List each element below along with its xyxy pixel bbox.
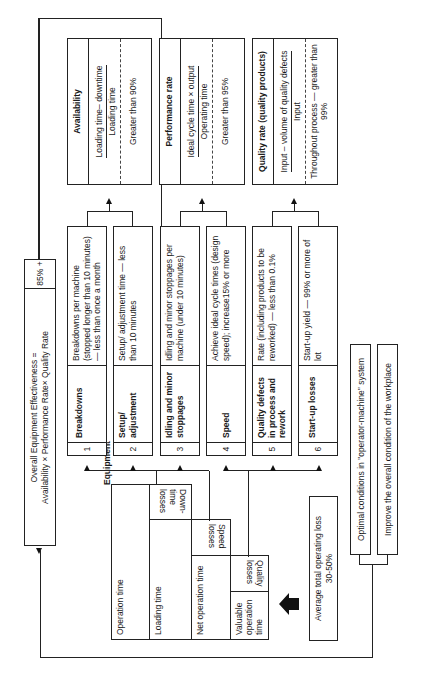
loss-target: Breakdowns per machine (stopped longer t… [67, 226, 107, 366]
metric-formula: Loading time– downtime Loading time [94, 39, 117, 184]
frame-right-edge [38, 18, 162, 19]
arrow-into-loss-1 [84, 465, 90, 471]
arrow-into-loss-3 [177, 465, 183, 471]
arrow-into-loss-6 [316, 465, 322, 471]
bracket-2-b [226, 212, 227, 226]
loss-name: Setup/ adjustment [113, 365, 153, 443]
metric-dash-divider [212, 39, 213, 184]
metric-title-divider [180, 39, 181, 184]
arrow-into-loss-2 [130, 465, 136, 471]
oee-formula-line1: Overall Equipment Effectiveness = [29, 290, 40, 545]
metric-target: Throughout process — greater than 99% [309, 39, 329, 184]
arrow-into-oee-bottom [36, 548, 42, 554]
oee-divider [25, 288, 55, 289]
loss-name: Quality defects in process and rework [252, 365, 292, 443]
loss-target: Achieve ideal cycle times (design speed)… [206, 226, 246, 366]
bracket-1-v [87, 211, 133, 212]
metric-numerator: Loading time– downtime [94, 65, 107, 157]
arrow-into-performance [199, 198, 205, 204]
loop-bottom-a [40, 548, 41, 658]
loss-number: 6 [298, 442, 338, 456]
equipment-table: Operation time Loading time Down-time lo… [111, 484, 269, 640]
down-time-losses: Down-time losses [149, 484, 192, 520]
loss-row-4: 4 Speed Achieve ideal cycle times (desig… [206, 226, 246, 456]
loss-row-5: 5 Quality defects in process and rework … [252, 226, 292, 456]
metric-denominator: Loading time [107, 39, 118, 184]
metric-target: Greater than 95% [220, 39, 231, 184]
loss-target: Rate (including products to be reworked)… [252, 226, 292, 366]
bracket-2-v [180, 211, 227, 212]
loss-number: 2 [113, 442, 153, 456]
row-operation-time: Operation time [111, 484, 150, 640]
loss-target: Idling and minor stoppages per machine (… [160, 226, 200, 366]
metric-denominator: Input [292, 39, 303, 184]
loss-name: Breakdowns [67, 365, 107, 443]
bracket-3-a [272, 212, 273, 226]
metric-numerator: Input – volume of quality defects [279, 51, 292, 173]
speed-stem-v [180, 470, 209, 471]
metric-formula: Input – volume of quality defects Input [279, 39, 302, 184]
loop-bottom-c [372, 580, 373, 658]
loss-target: Setup/ adjustment time — less than 10 mi… [113, 226, 153, 366]
bracket-3-v [272, 211, 319, 212]
quality-losses: Quality losses [230, 555, 269, 592]
metric-formula: Ideal cycle time × output Operating time [186, 39, 209, 184]
metric-title: Performance rate [164, 39, 175, 184]
loss-list: 1 Breakdowns Breakdowns per machine (sto… [67, 226, 339, 456]
loss-row-6: 6 Start-up losses Start-up yield — 99% o… [298, 226, 338, 456]
oee-diagram: Overall Equipment Effectiveness = Availa… [0, 0, 422, 685]
quality-stem [248, 471, 249, 557]
metric-dash-divider [305, 39, 306, 184]
result-arrow-icon [279, 593, 301, 615]
metric-numerator: Ideal cycle time × output [186, 66, 199, 158]
average-loss-line2: 30-50% [324, 497, 335, 640]
metric-title-divider [273, 39, 274, 184]
bracket-2-a [180, 212, 181, 226]
metric-availability: Availability Loading time– downtime Load… [67, 38, 152, 185]
loss-name: Start-up losses [298, 365, 338, 443]
row-valuable-operation-time: Valuable operation time [230, 591, 269, 640]
metric-denominator: Operating time [199, 39, 210, 184]
bracket-1-a [87, 212, 88, 226]
row-net-operation-time: Net operation time [191, 555, 231, 640]
loss-name: Speed [206, 365, 246, 443]
speed-losses: Speed losses [191, 519, 231, 556]
loop-bottom-b [40, 657, 372, 658]
oee-box: Overall Equipment Effectiveness = Availa… [24, 259, 56, 546]
loss-number: 1 [67, 442, 107, 456]
oee-target: 85% + [35, 259, 46, 288]
average-loss-line1: Average total operating loss [313, 497, 324, 640]
arrow-into-quality [291, 198, 297, 204]
bracket-1-b [132, 212, 133, 226]
condition-optimal: Optimal conditions in "operator-machine"… [350, 344, 371, 555]
metric-target: Greater than 90% [128, 39, 139, 184]
average-loss-box: Average total operating loss 30-50% [309, 496, 338, 641]
oee-formula: Overall Equipment Effectiveness = Availa… [29, 290, 50, 545]
loss-number: 5 [252, 442, 292, 456]
loss-row-1: 1 Breakdowns Breakdowns per machine (sto… [67, 226, 107, 456]
oee-formula-line2: Availability × Performance Rate× Quality… [40, 290, 51, 545]
arrow-into-availability [106, 198, 112, 204]
metric-dash-divider [120, 39, 121, 184]
speed-stem [209, 471, 210, 521]
loss-name: Idling and minor stoppages [160, 365, 200, 443]
condition-improve-workplace: Improve the overall condition of the wor… [377, 344, 398, 555]
loss-row-3: 3 Idling and minor stoppages Idling and … [160, 226, 200, 456]
loss-target: Start-up yield — 99% or more of lot [298, 226, 338, 366]
metric-performance-rate: Performance rate Ideal cycle time × outp… [159, 38, 245, 185]
arrow-into-loss-5 [270, 465, 276, 471]
metric-title: Quality rate (quality products) [257, 39, 268, 184]
down-time-stem [156, 471, 157, 485]
metric-title: Availability [72, 39, 83, 184]
loss-number: 3 [160, 442, 200, 456]
arrow-into-loss-4 [223, 465, 229, 471]
metric-title-divider [88, 39, 89, 184]
row-loading-time: Loading time [149, 519, 192, 640]
metric-quality-rate: Quality rate (quality products) Input – … [252, 38, 338, 185]
bracket-3-b [318, 212, 319, 226]
cond-bracket-v [359, 564, 388, 565]
loss-number: 4 [206, 442, 246, 456]
loss-row-2: 2 Setup/ adjustment Setup/ adjustment ti… [113, 226, 153, 456]
cond-bracket-stem [372, 565, 373, 580]
